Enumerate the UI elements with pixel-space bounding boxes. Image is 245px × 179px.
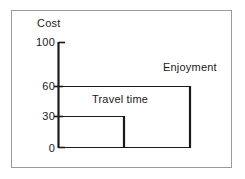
y-tick-label-0: 0 [49, 142, 55, 154]
y-tick-label-60: 60 [42, 80, 55, 92]
cost-comparison-figure: Cost 100 60 30 0 Travel time Enjoyment [0, 0, 245, 179]
travel-time-bracket [59, 117, 125, 148]
enjoyment-label: Enjoyment [163, 61, 217, 73]
travel-time-label: Travel time [92, 93, 148, 105]
y-axis-title: Cost [37, 17, 60, 29]
y-tick-label-30: 30 [42, 110, 55, 122]
y-tick-label-100: 100 [36, 36, 55, 48]
